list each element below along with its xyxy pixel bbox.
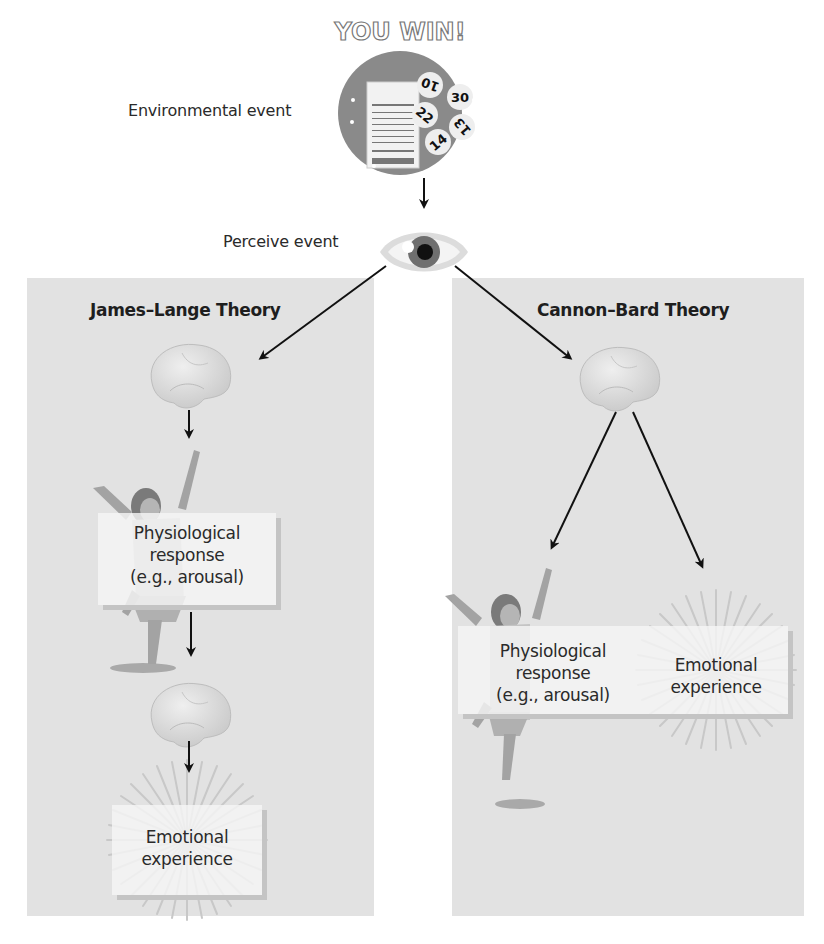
lottery-win-icon: 10 30 22 13 14 YOU WIN!: [333, 18, 476, 175]
cannon-bard-title: Cannon–Bard Theory: [537, 300, 729, 320]
environmental-event-label: Environmental event: [128, 101, 291, 120]
svg-text:30: 30: [451, 90, 469, 105]
foreground-layer: 10 30 22 13 14 YOU WIN!: [0, 0, 824, 944]
brain-icon: [151, 344, 231, 408]
svg-text:YOU WIN!: YOU WIN!: [333, 18, 465, 46]
brain-icon: [151, 683, 231, 747]
perceive-event-label: Perceive event: [223, 232, 338, 251]
brain-icon: [580, 347, 660, 411]
james-lange-title: James–Lange Theory: [90, 300, 281, 320]
eye-icon: [380, 233, 468, 272]
